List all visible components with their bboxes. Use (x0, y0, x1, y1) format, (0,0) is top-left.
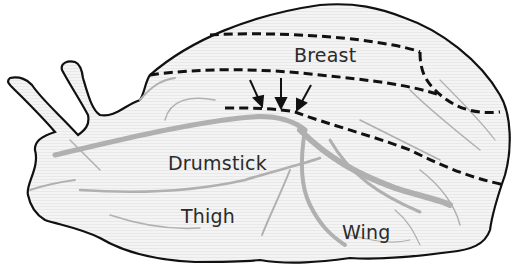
label-breast: Breast (294, 44, 356, 66)
label-drumstick: Drumstick (168, 152, 267, 174)
carcass-illustration (0, 0, 521, 275)
label-wing: Wing (342, 221, 391, 243)
chicken-parts-diagram: Breast Drumstick Thigh Wing (0, 0, 521, 275)
label-thigh: Thigh (181, 205, 235, 227)
carcass-outline (8, 4, 510, 262)
